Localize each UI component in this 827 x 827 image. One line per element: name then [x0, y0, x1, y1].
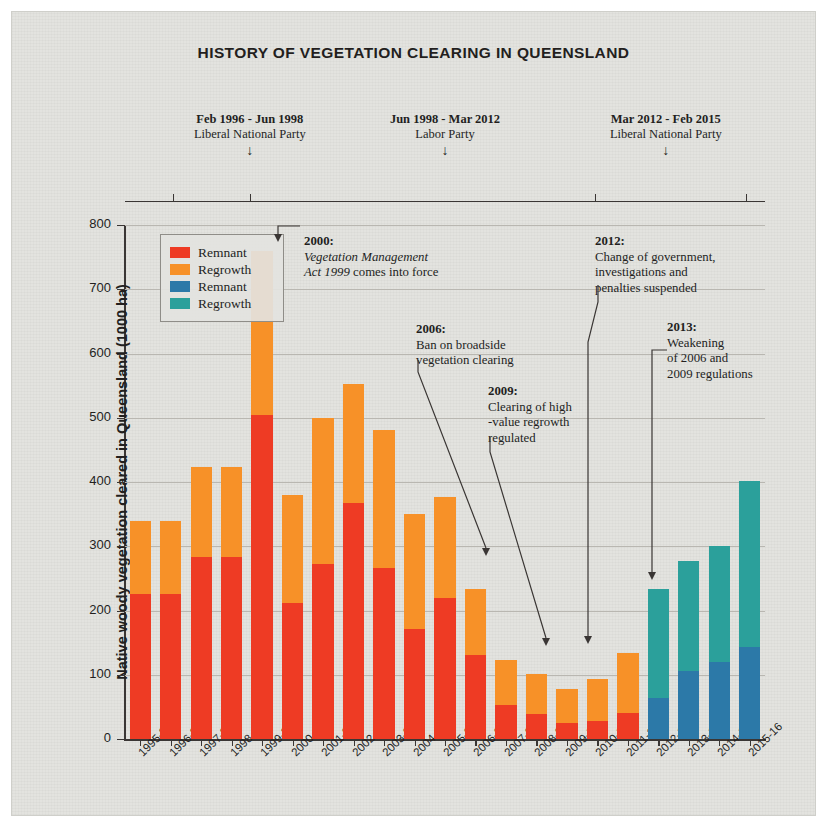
- annotation-leader-lines: [12, 12, 815, 815]
- poster-frame: HISTORY OF VEGETATION CLEARING IN QUEENS…: [12, 12, 815, 815]
